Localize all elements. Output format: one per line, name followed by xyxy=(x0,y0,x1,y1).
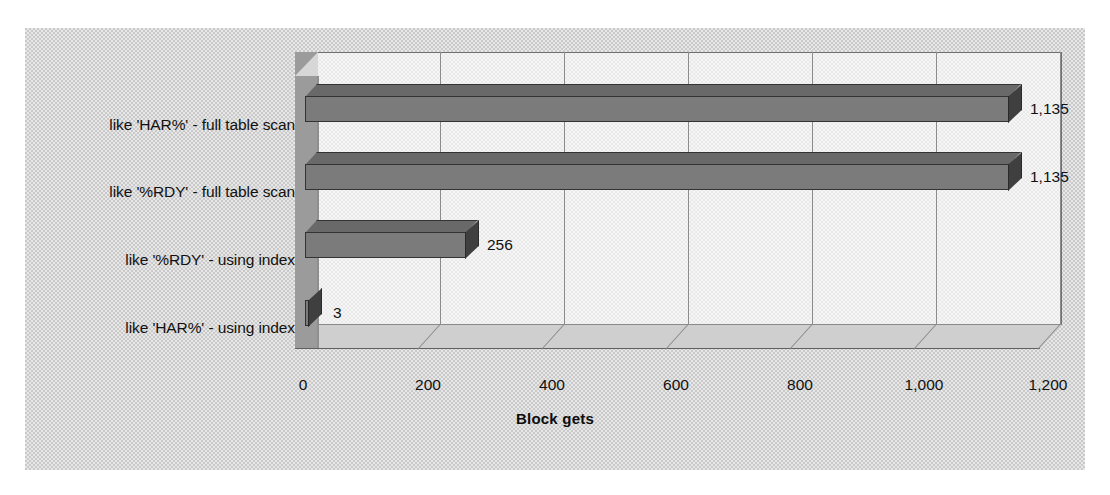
category-label-0: like 'HAR%' - full table scan xyxy=(25,116,295,134)
x-tick-0: 0 xyxy=(299,376,308,394)
bar-1-front-face xyxy=(305,164,1009,190)
x-axis-tick-labels: 0 200 400 600 800 1,000 1,200 xyxy=(295,376,1085,400)
x-tick-200: 200 xyxy=(415,376,441,394)
x-tick-400: 400 xyxy=(539,376,565,394)
bar-3-value-label: 3 xyxy=(333,304,342,322)
x-axis-line xyxy=(295,348,1040,349)
x-tick-800: 800 xyxy=(787,376,813,394)
x-tick-1200: 1,200 xyxy=(1029,376,1068,394)
y-axis-wall-top-bevel xyxy=(295,52,318,76)
plot-area: 1,135 1,135 256 3 xyxy=(295,52,1065,372)
x-tick-600: 600 xyxy=(663,376,689,394)
x-tick-1000: 1,000 xyxy=(905,376,944,394)
bar-2-value-label: 256 xyxy=(487,236,513,254)
category-label-3: like 'HAR%' - using index xyxy=(25,319,295,337)
category-label-1: like '%RDY' - full table scan xyxy=(25,183,295,201)
chart-figure: like 'HAR%' - full table scan like '%RDY… xyxy=(25,28,1085,470)
bar-1-value-label: 1,135 xyxy=(1030,168,1069,186)
category-label-2: like '%RDY' - using index xyxy=(25,251,295,269)
x-axis-title: Block gets xyxy=(25,410,1085,427)
y-axis-category-labels: like 'HAR%' - full table scan like '%RDY… xyxy=(25,28,295,338)
bar-2-front-face xyxy=(305,232,466,258)
bar-0-value-label: 1,135 xyxy=(1030,100,1069,118)
plot-floor xyxy=(295,324,1062,349)
bar-0-front-face xyxy=(305,96,1009,122)
gridline-1200 xyxy=(1060,52,1061,324)
floor-back-edge xyxy=(317,324,1062,325)
